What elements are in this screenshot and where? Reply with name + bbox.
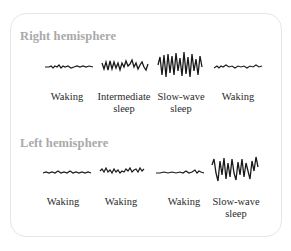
label-line: Slow-wave: [206, 196, 266, 208]
right-label-1: Waking: [37, 91, 97, 103]
right-wave-3-slow-wave: [156, 49, 206, 81]
left-wave-4-slow-wave: [210, 153, 262, 187]
left-wave-2-waking: [98, 160, 148, 182]
left-hemisphere-heading: Left hemisphere: [20, 136, 108, 151]
label-line: sleep: [94, 103, 154, 115]
label-line: sleep: [206, 208, 266, 220]
label-line: Waking: [33, 196, 93, 208]
label-line: Waking: [208, 91, 268, 103]
left-label-1: Waking: [33, 196, 93, 208]
label-line: Intermediate: [94, 91, 154, 103]
label-line: Slow-wave: [151, 91, 211, 103]
left-wave-1-waking: [42, 161, 92, 183]
label-line: Waking: [154, 196, 214, 208]
right-hemisphere-heading: Right hemisphere: [20, 29, 116, 44]
right-label-4: Waking: [208, 91, 268, 103]
right-wave-1-waking: [44, 55, 94, 79]
label-line: sleep: [151, 103, 211, 115]
right-wave-2-intermediate: [100, 53, 150, 79]
left-label-3: Waking: [154, 196, 214, 208]
right-label-3: Slow-wave sleep: [151, 91, 211, 115]
left-label-4: Slow-wave sleep: [206, 196, 266, 220]
left-label-2: Waking: [91, 196, 151, 208]
left-wave-3-waking: [155, 161, 205, 183]
label-line: Waking: [91, 196, 151, 208]
right-wave-4-waking: [213, 55, 263, 79]
right-label-2: Intermediate sleep: [94, 91, 154, 115]
label-line: Waking: [37, 91, 97, 103]
